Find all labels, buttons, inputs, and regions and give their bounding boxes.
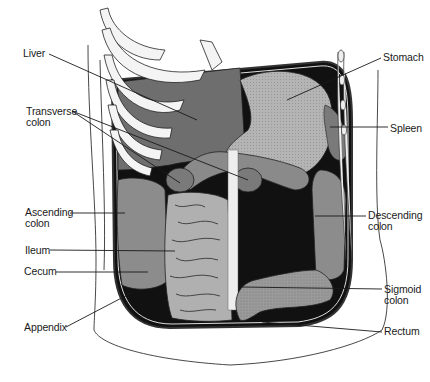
ascending-colon-shape — [117, 178, 168, 289]
label-liver: Liver — [23, 48, 45, 59]
label-stomach: Stomach — [383, 52, 424, 63]
label-cecum: Cecum — [24, 266, 57, 277]
small-intestine-shape — [165, 192, 232, 321]
descending-colon-shape — [312, 170, 346, 280]
label-ascending-colon: Ascending colon — [25, 207, 73, 229]
label-transverse-colon: Transverse colon — [26, 106, 77, 128]
label-descending-colon: Descending colon — [368, 210, 422, 232]
label-rectum: Rectum — [384, 326, 420, 337]
anatomy-diagram: Liver Transverse colon Ascending colon I… — [0, 0, 430, 382]
leader-appendix — [66, 292, 133, 327]
label-spleen: Spleen — [390, 123, 422, 134]
label-appendix: Appendix — [24, 322, 67, 333]
label-sigmoid-colon: Sigmoid colon — [384, 284, 421, 306]
label-ileum: Ileum — [25, 245, 50, 256]
